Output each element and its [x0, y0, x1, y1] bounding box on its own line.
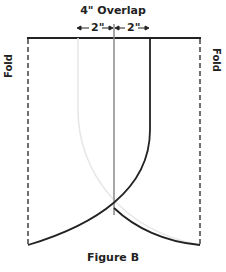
fold-left-label: Fold: [3, 48, 14, 78]
figure-caption: Figure B: [0, 251, 226, 264]
right-curve: [28, 38, 150, 245]
fold-right-label: Fold: [211, 48, 222, 78]
pattern-diagram: [0, 0, 226, 272]
dimension-left-label: 2": [91, 21, 104, 34]
faint-left-curve: [78, 38, 200, 245]
lower-right-curve: [114, 208, 200, 245]
dimension-right-label: 2": [127, 21, 140, 34]
